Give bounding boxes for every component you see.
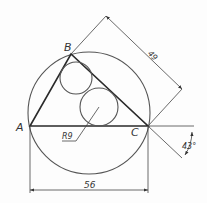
small-inner-circle [60, 62, 92, 94]
triangle-abc [30, 54, 148, 126]
dimension-line-49 [106, 16, 182, 89]
angle-arc [185, 132, 192, 155]
drawing-svg [0, 0, 207, 203]
angle-extension-line [148, 126, 182, 158]
extension-line-b [71, 16, 106, 54]
geometry-drawing: B A C R9 56 49 43° [0, 0, 207, 203]
extension-line-c [148, 89, 182, 126]
